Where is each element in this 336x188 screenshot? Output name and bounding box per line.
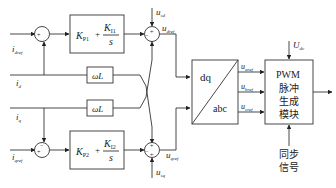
usq-label: usq [156, 167, 165, 178]
transform-dq-label: dq [200, 71, 212, 83]
iq-label: iq [16, 112, 22, 123]
uqref-label: uqref [166, 150, 179, 161]
pi1-plus: + [95, 29, 100, 39]
pi2-plus: + [95, 145, 100, 155]
pi2-s: s [109, 152, 113, 163]
pwm-line-4: 模块 [279, 109, 299, 120]
udref-label: udref [162, 23, 175, 34]
usd-label: usd [156, 7, 165, 18]
sync-line-1: 同步 [279, 149, 299, 160]
ucref-label: ucref [241, 102, 253, 112]
udc-label: Udc [293, 40, 305, 51]
pi1-s: s [109, 36, 113, 47]
sync-line-2: 信号 [279, 162, 299, 173]
uaref-label: uaref [241, 62, 253, 72]
ubref-label: ubref [241, 82, 253, 92]
control-block-diagram: + − + − − + − + − + [0, 0, 336, 188]
omega-l-bottom-label: ωL [92, 104, 103, 114]
idref-label: idref [12, 44, 23, 55]
omega-l-top-label: ωL [92, 71, 103, 81]
iqref-label: iqref [12, 152, 23, 163]
pwm-line-3: 生成 [279, 95, 299, 107]
id-label: id [16, 78, 22, 89]
udref-line [160, 34, 190, 77]
pwm-line-2: 脉冲 [279, 82, 299, 94]
uqref-line [160, 108, 190, 150]
pwm-line-1: PWM [276, 69, 300, 80]
transform-abc-label: abc [213, 103, 227, 114]
